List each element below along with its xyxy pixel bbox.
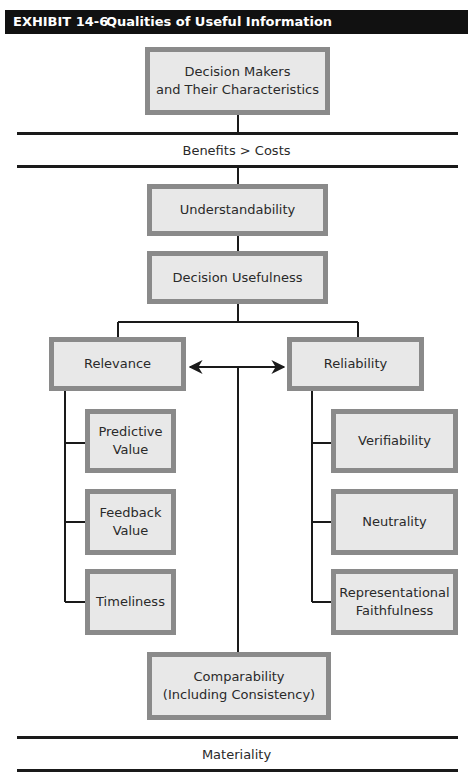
decision-usefulness-box: Decision Usefulness — [147, 251, 328, 304]
verifiability-box: Verifiability — [331, 409, 458, 473]
materiality-label: Materiality — [0, 746, 473, 764]
relevance-box: Relevance — [49, 337, 186, 391]
feedback-value-box: Feedback Value — [85, 489, 176, 555]
representational-faithfulness-box: Representational Faithfulness — [331, 569, 458, 635]
neutrality-box: Neutrality — [331, 489, 458, 555]
reliability-box: Reliability — [287, 337, 424, 391]
materiality-bottom-rule — [17, 769, 458, 772]
materiality-top-rule — [17, 736, 458, 739]
predictive-value-box: Predictive Value — [85, 409, 176, 473]
benefits-costs-top-rule — [17, 132, 458, 135]
decision-makers-box: Decision Makers and Their Characteristic… — [145, 47, 330, 115]
timeliness-box: Timeliness — [85, 569, 176, 635]
understandability-box: Understandability — [147, 184, 328, 236]
benefits-costs-bottom-rule — [17, 165, 458, 168]
benefits-costs-label: Benefits > Costs — [0, 142, 473, 160]
comparability-box: Comparability (Including Consistency) — [147, 652, 331, 720]
